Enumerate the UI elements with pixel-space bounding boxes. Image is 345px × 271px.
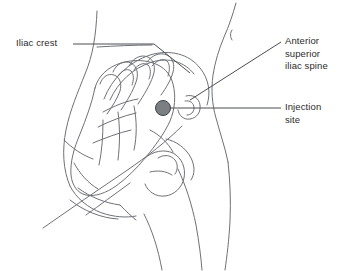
waist-top-line-path — [97, 45, 152, 47]
navel-mark-path — [231, 30, 233, 40]
pelvic-wing-path — [150, 130, 173, 152]
iliac-crest-arc-path — [104, 53, 209, 105]
thumb-path — [145, 151, 185, 196]
knuckle-crease-2-path — [98, 113, 136, 127]
label-injection-site: Injection site — [285, 101, 321, 126]
tendon-line-1-path — [118, 112, 120, 160]
forearm-lower-edge-path — [86, 183, 130, 215]
knuckle-crease-1-path — [103, 99, 138, 112]
figure-root: Iliac crest Anterior superior iliac spin… — [0, 0, 345, 271]
torso-right-edge-path — [212, 3, 236, 162]
buttock-crease-path — [64, 140, 93, 159]
knuckle-crease-3-path — [93, 130, 131, 143]
right-thigh-edge-path — [225, 162, 230, 270]
injection-site-dot — [156, 101, 171, 116]
label-anterior-superior-iliac-spine: Anterior superior iliac spine — [285, 35, 328, 73]
asis-prominence-path — [178, 95, 200, 119]
hypothenar-path — [74, 163, 98, 189]
thigh-front-line-path — [144, 214, 162, 270]
wrist-cuff-upper-path — [78, 188, 120, 205]
label-iliac-crest: Iliac crest — [16, 37, 57, 50]
thumb-crease-path — [150, 171, 172, 175]
wrist-cuff-edge-path — [120, 205, 136, 220]
asis-leader — [190, 42, 281, 100]
